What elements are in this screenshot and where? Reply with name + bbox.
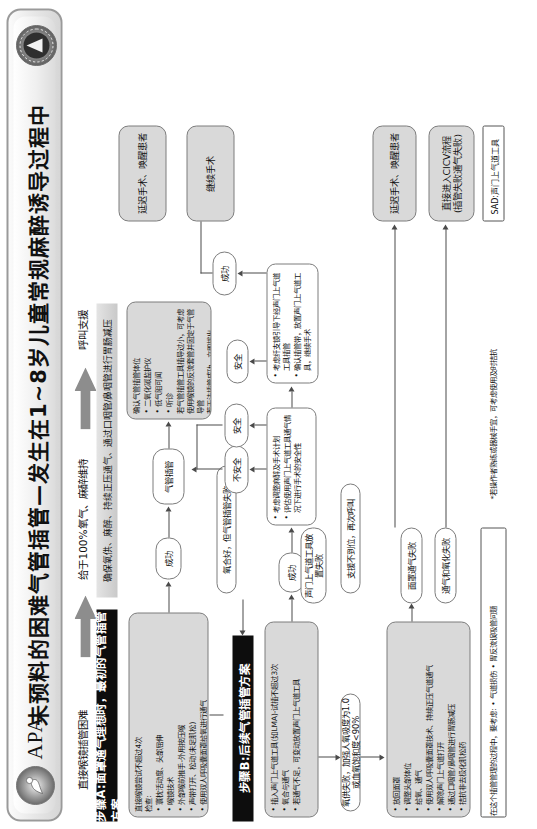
outcome-delay-wake-c: 延迟手术、唤醒患者 bbox=[372, 125, 416, 221]
connector bbox=[291, 532, 292, 552]
list-item: 确认插管带，放置声门上气道工具，继续手术 bbox=[292, 269, 312, 377]
arrow-icon bbox=[442, 224, 448, 229]
confirm-bullets: 二氧化碳监护仪 低气阻可闻 听诊 bbox=[142, 307, 174, 413]
step-b-header: 步骤B:后续气管插管方案 bbox=[232, 635, 253, 821]
footnote-star: *若操作者熟练或器械手宜，可考虑使用及时拮抗 bbox=[486, 348, 497, 499]
poster-root: APA 未预料的困难气管插管—发生在1~8岁儿童常规麻醉诱导过程中 直接喉镜插管… bbox=[0, 0, 537, 829]
step-a-header: 步骤A:面罩通气理想时，最初的气管插管方案 bbox=[96, 609, 117, 821]
list-item: 使用双人呼吸囊面罩给氧进行通气 bbox=[198, 618, 208, 811]
connector bbox=[200, 221, 201, 273]
list-item: 评估使用声门上气道工具通气情况下进行手术的安全性 bbox=[282, 413, 302, 519]
connector bbox=[196, 424, 222, 425]
right-arrow-icon-2 bbox=[74, 367, 96, 429]
branch-unsafe: 不安全 bbox=[224, 445, 248, 493]
box-anaesthesia-surgical-plan: 考虑调整麻醉及手术计划 评估使用声门上气道工具通气情况下进行手术的安全性 bbox=[266, 407, 316, 525]
poster-canvas: APA 未预料的困难气管插管—发生在1~8岁儿童常规麻醉诱导过程中 直接喉镜插管… bbox=[0, 0, 537, 829]
outcome-cicv: 直接进入CICV流程 (插管失败通气失败) bbox=[428, 125, 474, 221]
footnote-process-frame bbox=[480, 527, 506, 817]
pill-mask-ventilation-failed: 面罩通气失败 bbox=[400, 527, 422, 603]
connector bbox=[394, 227, 395, 527]
label-success-a: 成功 bbox=[155, 537, 181, 579]
arrow-icon bbox=[249, 422, 254, 428]
connector bbox=[291, 391, 292, 407]
arrow-icon bbox=[391, 224, 397, 229]
connector bbox=[445, 227, 446, 527]
pill-oxygenation-failure: 氧供失败，加强人氧吸度为1.0或血氧饱和度<90% bbox=[340, 693, 360, 811]
sad-bullets: 插入声门上气道工具(如LMA)-试插不超过3次 氧合与通气 若通气不足，可变动放… bbox=[269, 627, 301, 811]
list-item: 寰枕活动度、头部屈伸 bbox=[154, 618, 164, 811]
arrow-icon bbox=[191, 466, 196, 472]
list-item: 听诊 bbox=[164, 307, 174, 413]
box-supraglottic-airway: 插入声门上气道工具(如LMA)-试插不超过3次 氧合与通气 若通气不足，可变动放… bbox=[264, 621, 318, 817]
box-fiberoptic-guided: 考虑纤支镜引导下经声门上气道工具插管 确认插管带，放置声门上气道工具，继续手术 bbox=[266, 263, 318, 383]
connector bbox=[254, 360, 266, 361]
connector bbox=[168, 586, 169, 612]
flow-label-call-for-help: 呼叫支援 bbox=[74, 309, 89, 349]
list-item: 插入声门上气道工具(如LMA)-试插不超过3次 bbox=[269, 627, 279, 811]
label-safe: 安全 bbox=[226, 339, 248, 383]
connector bbox=[200, 272, 212, 273]
outcome-continue-surgery: 继续手术 bbox=[186, 125, 234, 221]
connector bbox=[254, 468, 266, 469]
list-item: 二氧化碳监护仪 bbox=[142, 307, 152, 413]
checklist-lead: 直接喉镜尝试不超过4次 检查: bbox=[133, 618, 153, 811]
list-item: 外部喉前推手-外用按压喉 bbox=[176, 618, 186, 811]
list-item: 氧合与通气 bbox=[280, 627, 290, 811]
pill-support-not-arrived: 支援不到位，再次呼叫 bbox=[340, 483, 360, 593]
pill-ventilation-oxygenation-failed: 通气和氧化失败 bbox=[434, 527, 456, 603]
flow-label-oxygen-maintain: 给于100%氧气、麻醉维持 bbox=[74, 459, 89, 579]
list-item: 喉镜技术 bbox=[165, 618, 175, 811]
box-laryngoscopy-checklist: 直接喉镜尝试不超过4次 检查: 寰枕活动度、头部屈伸 喉镜技术 外部喉前推手-外… bbox=[128, 612, 208, 817]
connector bbox=[209, 714, 223, 715]
pill-tracheal-intubation: 气管插管 bbox=[152, 448, 184, 504]
arrow-icon bbox=[335, 754, 340, 760]
flow-label-difficult-laryngoscopy: 直接喉镜插管困难 bbox=[74, 709, 89, 789]
connector bbox=[291, 599, 292, 621]
arrow-icon bbox=[379, 754, 384, 760]
list-item: 声带打开、松动(未足肌松) bbox=[187, 618, 197, 811]
rescue-bullets: 放回面罩 调整头部体位 给氧、通气 使用双人呼吸囊面罩技术、持续正压气道通气 解… bbox=[391, 627, 467, 811]
list-item: 解除声门上气道打开 bbox=[435, 627, 445, 811]
arrow-icon bbox=[165, 506, 171, 511]
list-item: 若通气不足，可变动放置声门上气道工具 bbox=[291, 627, 301, 811]
label-success-b2: 成功 bbox=[212, 251, 236, 295]
arrow-icon bbox=[237, 270, 242, 276]
connector bbox=[196, 424, 197, 469]
step-a-subbar: 确保氧供、麻醉、持续正压通气、通过口咽管/鼻咽管进行胃肠减压 bbox=[96, 303, 117, 597]
arrow-icon bbox=[165, 421, 171, 426]
connector bbox=[168, 426, 169, 448]
box-confirm-tube-position: 确认气管插管体位 二氧化碳监护仪 低气阻可闻 听诊 若气管插管工具插导过小，可考… bbox=[126, 301, 211, 419]
title-banner: APA 未预料的困难气管插管—发生在1~8岁儿童常规麻醉诱导过程中 bbox=[6, 8, 62, 821]
box-mask-rescue: 放回面罩 调整头部体位 给氧、通气 使用双人呼吸囊面罩技术、持续正压气道通气 解… bbox=[386, 621, 470, 817]
fiberoptic-bullets: 考虑纤支镜引导下经声门上气道工具插管 确认插管带，放置声门上气道工具，继续手术 bbox=[271, 269, 312, 377]
arrow-icon bbox=[165, 581, 171, 586]
connector bbox=[242, 272, 266, 273]
connector bbox=[168, 511, 169, 537]
arrow-icon bbox=[249, 358, 254, 364]
branch-safe: 安全 bbox=[224, 403, 248, 447]
list-item: 拮抗非去极化肌松药 bbox=[457, 627, 467, 811]
checklist-bullets: 寰枕活动度、头部屈伸 喉镜技术 外部喉前推手-外用按压喉 声带打开、松动(未足肌… bbox=[154, 618, 208, 811]
arrow-icon bbox=[408, 603, 414, 608]
plan-bullets: 考虑调整麻醉及手术计划 评估使用声门上气道工具通气情况下进行手术的安全性 bbox=[271, 413, 302, 519]
list-item: 使用双人呼吸囊面罩技术、持续正压气道通气 bbox=[424, 627, 434, 811]
confirm-lead: 确认气管插管体位 bbox=[131, 307, 141, 413]
list-item: 低气阻可闻 bbox=[153, 307, 163, 413]
connector bbox=[196, 468, 222, 469]
arrow-icon bbox=[288, 594, 294, 599]
list-item: 调整头部体位 bbox=[402, 627, 412, 811]
list-item: 给氧、通气 bbox=[413, 627, 423, 811]
list-item: 放回面罩 bbox=[391, 627, 401, 811]
list-item: 考虑调整麻醉及手术计划 bbox=[271, 413, 281, 519]
legend-sad: SAD:声门上气道工具 bbox=[482, 125, 504, 221]
arrow-icon bbox=[249, 466, 254, 472]
arrow-icon bbox=[288, 527, 294, 532]
connector bbox=[254, 424, 266, 425]
arrow-icon bbox=[239, 630, 245, 635]
outcome-delay-wake-b: 延迟手术、唤醒患者 bbox=[118, 125, 166, 221]
pill-sad-placement-failed: 声门上气道工具放置失败 bbox=[300, 527, 326, 603]
arrow-icon bbox=[288, 386, 294, 391]
page-title: 未预料的困难气管插管—发生在1~8岁儿童常规麻醉诱导过程中 bbox=[21, 10, 51, 819]
connector bbox=[242, 599, 243, 631]
list-item: 考虑纤支镜引导下经声门上气道工具插管 bbox=[271, 269, 291, 377]
